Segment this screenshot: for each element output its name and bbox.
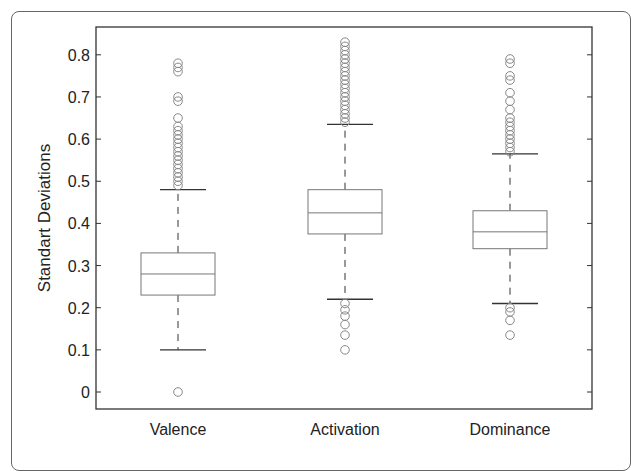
- y-axis-title: Standart Deviations: [35, 144, 54, 292]
- outlier-point: [506, 316, 515, 325]
- box-dominance: [473, 55, 547, 340]
- iqr-box: [473, 211, 547, 249]
- y-tick-label: 0.1: [68, 342, 90, 359]
- iqr-box: [308, 190, 382, 234]
- outlier-point: [506, 105, 515, 114]
- outlier-point: [341, 346, 350, 355]
- outlier-point: [174, 388, 183, 397]
- y-tick-label: 0.8: [68, 47, 90, 64]
- y-tick-label: 0: [81, 384, 90, 401]
- outlier-point: [506, 97, 515, 106]
- y-tick-label: 0.4: [68, 215, 90, 232]
- box-valence: [141, 59, 215, 396]
- x-category-label: Activation: [310, 421, 379, 438]
- x-category-label: Dominance: [470, 421, 551, 438]
- boxplot-series: [141, 38, 547, 396]
- outlier-point: [506, 331, 515, 340]
- outlier-point: [341, 331, 350, 340]
- outlier-point: [506, 88, 515, 97]
- outlier-point: [174, 114, 183, 123]
- y-tick-label: 0.6: [68, 131, 90, 148]
- x-category-label: Valence: [150, 421, 207, 438]
- outlier-point: [341, 299, 350, 308]
- y-tick-label: 0.3: [68, 258, 90, 275]
- y-tick-label: 0.2: [68, 300, 90, 317]
- box-activation: [308, 38, 382, 354]
- y-tick-label: 0.7: [68, 89, 90, 106]
- y-tick-label: 0.5: [68, 173, 90, 190]
- outlier-point: [341, 320, 350, 329]
